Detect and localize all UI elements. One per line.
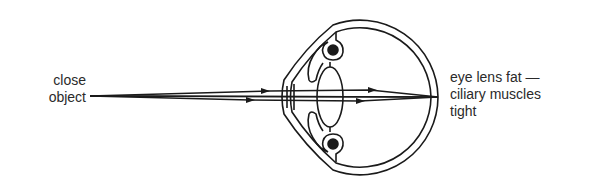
arrow-icon (356, 98, 365, 104)
arrow-icon (261, 88, 270, 94)
eye-diagram (0, 0, 597, 187)
arrow-icon (368, 87, 377, 93)
arrow-icon (246, 97, 255, 103)
